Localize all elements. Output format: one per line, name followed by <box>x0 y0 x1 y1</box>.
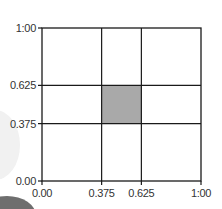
x-tick-label: 1:00 <box>191 187 211 199</box>
y-tick-label: 0.00 <box>16 175 36 187</box>
plot-area <box>42 28 201 181</box>
y-tick-label: 0.625 <box>10 79 36 91</box>
x-tick-label: 0.625 <box>128 187 154 199</box>
y-tick-label: 1:00 <box>16 22 36 34</box>
x-tick-label: 0.375 <box>89 187 115 199</box>
unit-square-grid-chart: 0.000.3750.6251:000.000.3750.6251:00 <box>0 0 222 209</box>
x-tick-label: 0.00 <box>32 187 52 199</box>
y-tick-label: 0.375 <box>10 118 36 130</box>
shaded-region <box>102 85 142 123</box>
